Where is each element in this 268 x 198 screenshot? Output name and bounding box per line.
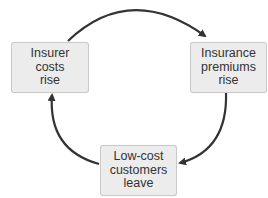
arrow-costs-to-premiums — [68, 10, 205, 41]
node-line: costs — [31, 61, 70, 75]
node-insurance-premiums-rise: Insurance premiums rise — [190, 42, 267, 93]
node-line: customers — [110, 164, 168, 178]
node-line: premiums — [201, 61, 256, 75]
node-line: rise — [31, 74, 70, 88]
node-insurer-costs-rise: Insurer costs rise — [11, 42, 89, 93]
node-low-cost-customers-leave: Low-cost customers leave — [100, 145, 177, 196]
node-line: Insurer — [31, 47, 70, 61]
arrow-leave-to-costs — [52, 95, 99, 164]
arrow-premiums-to-leave — [180, 92, 226, 163]
node-line: rise — [201, 74, 256, 88]
node-line: leave — [110, 177, 168, 191]
node-line: Insurance — [201, 47, 256, 61]
node-line: Low-cost — [110, 150, 168, 164]
